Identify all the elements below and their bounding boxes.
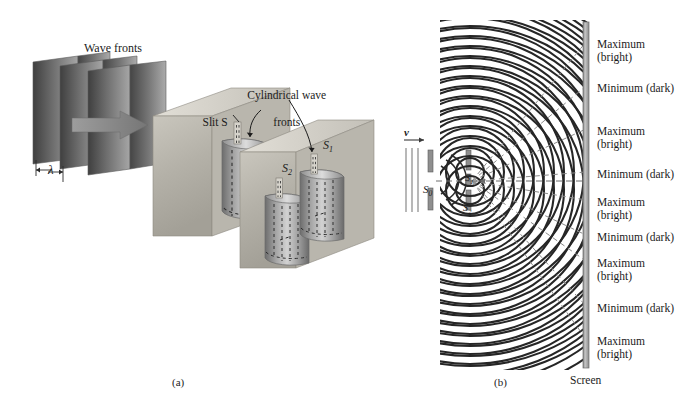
fringe-label-line2: (bright) xyxy=(597,138,632,150)
screen xyxy=(583,22,589,368)
figure-root: Wave fronts λ Slit S Cylindrical wave fr… xyxy=(0,0,698,409)
barrier-label-s2-sub: 2 xyxy=(288,168,292,177)
fringe-label-line1: Minimum (dark) xyxy=(597,302,674,314)
fringe-label-line1: Maximum xyxy=(597,38,645,50)
barrier-label-s1-sub: 1 xyxy=(329,145,333,154)
fringe-label: Maximum(bright) xyxy=(597,125,645,151)
cylindrical-line-1: Cylindrical wave xyxy=(247,89,326,101)
fringe-label: Maximum(bright) xyxy=(597,335,645,361)
source-label-s2: S2 xyxy=(453,190,472,227)
source-label-s2-sub: 2 xyxy=(468,208,472,216)
wave-fronts-title: Wave fronts xyxy=(84,42,142,56)
fringe-label: Minimum (dark) xyxy=(597,82,674,95)
fringe-label-line1: Maximum xyxy=(597,257,645,269)
fringe-label-line2: (bright) xyxy=(597,348,632,360)
source-label-s0-sub: 0 xyxy=(429,189,433,198)
fringe-label-line2: (bright) xyxy=(597,270,632,282)
barrier-label-s2: S2 xyxy=(270,148,292,191)
fringe-label: Maximum(bright) xyxy=(597,38,645,64)
source-label-s1-sub: 1 xyxy=(470,178,474,186)
fringe-label: Minimum (dark) xyxy=(597,168,674,181)
figure-canvas xyxy=(0,0,698,409)
fringe-label-line1: Minimum (dark) xyxy=(597,231,674,243)
screen-label: Screen xyxy=(570,374,601,387)
fringe-label-line2: (bright) xyxy=(597,209,632,221)
fringe-label: Minimum (dark) xyxy=(597,302,674,315)
fringe-label: Maximum(bright) xyxy=(597,196,645,222)
fringe-label-line2: (bright) xyxy=(597,51,632,63)
source-label-s0: S0 xyxy=(412,170,432,211)
fringe-label-line1: Maximum xyxy=(597,125,645,137)
caption-b: (b) xyxy=(494,376,507,389)
wavelength-label: λ xyxy=(48,163,54,178)
cylindrical-wave-front-s1 xyxy=(300,170,344,241)
fringe-label-line1: Maximum xyxy=(597,196,645,208)
fringe-label-line1: Maximum xyxy=(597,335,645,347)
fringe-label: Maximum(bright) xyxy=(597,257,645,283)
fringe-label-line1: Minimum (dark) xyxy=(597,168,674,180)
fringe-label-line1: Minimum (dark) xyxy=(597,82,674,94)
velocity-label: v xyxy=(404,126,409,139)
caption-a: (a) xyxy=(172,376,184,389)
cylindrical-line-2: fronts xyxy=(273,116,300,128)
barrier-label-s1: S1 xyxy=(311,125,333,168)
fringe-label: Minimum (dark) xyxy=(597,231,674,244)
